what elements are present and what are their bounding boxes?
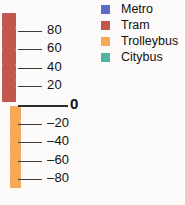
marker-square-positive	[2, 94, 16, 102]
legend-label: Citybus	[121, 50, 163, 65]
tick-mark	[18, 142, 42, 143]
legend-label: Tram	[121, 18, 150, 33]
tick-mark	[18, 49, 42, 50]
legend-label: Metro	[121, 2, 153, 17]
transport-modal-split-chart: 806040200–20–40–60–80 MetroTramTrolleybu…	[0, 0, 185, 205]
legend-swatch-icon	[101, 21, 110, 30]
tick-mark	[18, 161, 42, 162]
axis-tick-label: –80	[47, 170, 69, 185]
tick-mark	[18, 179, 42, 180]
marker-square-negative	[10, 180, 21, 188]
legend-item-metro[interactable]: Metro	[101, 2, 185, 17]
legend-label: Trolleybus	[121, 34, 178, 49]
axis-tick-label: 40	[47, 59, 62, 74]
marker-square-positive	[2, 20, 16, 28]
axis-tick-label: –20	[47, 115, 69, 130]
tick-mark	[18, 86, 42, 87]
legend-swatch-icon	[101, 37, 110, 46]
legend-swatch-icon	[101, 53, 110, 62]
legend-item-citybus[interactable]: Citybus	[101, 50, 185, 65]
marker-square-negative	[10, 113, 21, 121]
axis-tick-label: 20	[47, 77, 62, 92]
chart-legend: MetroTramTrolleybusCitybus	[101, 2, 185, 66]
axis-tick-label: –60	[47, 152, 69, 167]
tick-mark	[18, 68, 42, 69]
tick-mark	[18, 124, 42, 125]
legend-swatch-icon	[101, 5, 110, 14]
legend-item-trolleybus[interactable]: Trolleybus	[101, 34, 185, 49]
axis-tick-label: –40	[47, 133, 69, 148]
tick-mark	[18, 105, 68, 107]
marker-square-positive	[2, 72, 16, 80]
axis-tick-label: 60	[47, 40, 62, 55]
axis-zero-label: 0	[70, 95, 79, 112]
axis-tick-label: 80	[47, 22, 62, 37]
marker-square-negative	[10, 165, 21, 173]
legend-item-tram[interactable]: Tram	[101, 18, 185, 33]
tick-mark	[18, 31, 42, 32]
